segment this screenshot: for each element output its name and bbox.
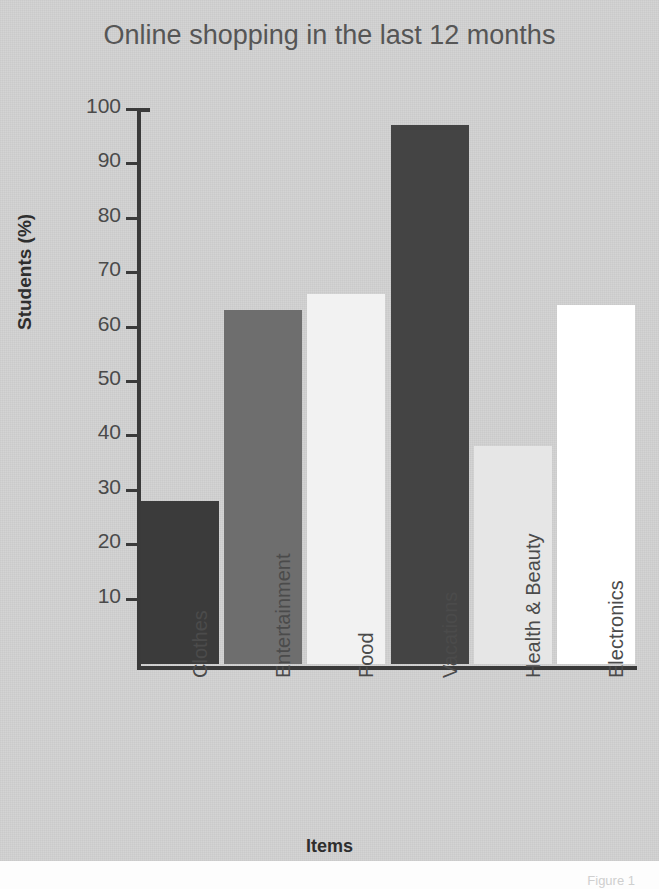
- y-axis-tick-label: 10: [65, 584, 121, 608]
- y-axis-tick-label: 50: [65, 366, 121, 390]
- y-axis-top-cap: [137, 108, 150, 112]
- x-axis-label: Health & Beauty: [522, 533, 545, 678]
- y-axis-tick: [126, 434, 137, 437]
- figure-caption: Figure 1: [0, 873, 635, 888]
- y-axis-tick-label: 90: [65, 148, 121, 172]
- y-axis-tick-label: 60: [65, 312, 121, 336]
- x-axis-line: [137, 666, 637, 670]
- y-axis-tick-label: 30: [65, 475, 121, 499]
- x-axis-label: Vacations: [439, 592, 462, 678]
- y-axis-tick: [126, 380, 137, 383]
- y-axis-tick: [126, 271, 137, 274]
- y-axis-tick: [126, 598, 137, 601]
- y-axis-tick-label: 70: [65, 257, 121, 281]
- x-axis-label: Entertainment: [272, 553, 295, 678]
- bar: [307, 294, 385, 664]
- chart-title: Online shopping in the last 12 months: [0, 20, 659, 51]
- plot-area: 102030405060708090100 ClothesEntertainme…: [137, 108, 637, 668]
- y-axis-tick: [126, 326, 137, 329]
- y-axis-title: Students (%): [14, 214, 36, 330]
- y-axis-tick-label: 20: [65, 529, 121, 553]
- y-axis-tick-label: 40: [65, 420, 121, 444]
- y-axis-tick: [126, 543, 137, 546]
- y-axis-tick: [126, 108, 137, 111]
- x-axis-label: Food: [355, 632, 378, 678]
- y-axis-tick: [126, 217, 137, 220]
- y-axis-tick: [126, 162, 137, 165]
- y-axis-tick-label: 80: [65, 203, 121, 227]
- chart-page: Online shopping in the last 12 months 10…: [0, 0, 659, 889]
- x-axis-label: Electronics: [605, 580, 628, 678]
- bar: [391, 125, 469, 664]
- y-axis-tick: [126, 489, 137, 492]
- y-axis-tick-label: 100: [65, 94, 121, 118]
- x-axis-label: Clothes: [189, 610, 212, 678]
- x-axis-title: Items: [0, 836, 659, 857]
